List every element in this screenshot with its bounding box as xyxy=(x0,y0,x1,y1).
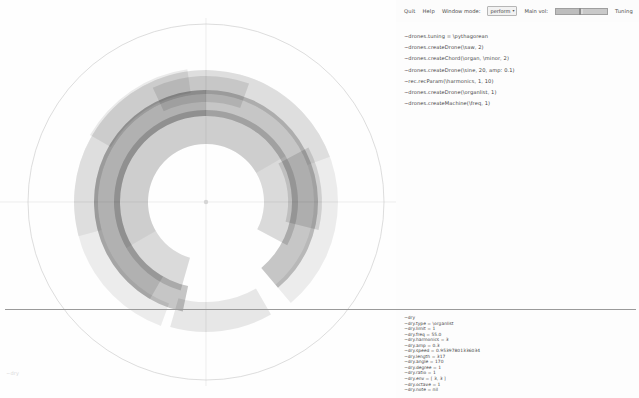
main-volume-slider[interactable] xyxy=(555,8,608,15)
viz-corner-label: ~dry xyxy=(6,370,19,376)
code-log-area[interactable]: ~drones.tuning = \pythagorean~drones.cre… xyxy=(396,26,639,304)
code-line[interactable]: ~drones.createChord(\organ, \minor, 2) xyxy=(404,53,631,64)
help-button[interactable]: Help xyxy=(422,8,434,14)
chevron-down-icon: ▾ xyxy=(512,9,514,13)
right-panel: Quit Help Window mode: perform ▾ Main vo… xyxy=(396,0,639,398)
status-inspector[interactable]: ~dry~dry.type = \organlist~dry.limit = 1… xyxy=(396,313,639,398)
quit-button[interactable]: Quit xyxy=(404,8,415,14)
toolbar: Quit Help Window mode: perform ▾ Main vo… xyxy=(396,0,639,22)
volume-slider-fill-right xyxy=(583,9,607,14)
status-line[interactable]: ~dry.note = nil xyxy=(404,387,631,393)
window-mode-select[interactable]: perform ▾ xyxy=(487,6,517,16)
panel-divider xyxy=(5,309,636,310)
radial-visualizer-panel[interactable]: ~dry xyxy=(0,0,396,398)
code-line[interactable]: ~drones.tuning = \pythagorean xyxy=(404,31,631,42)
window-mode-value: perform xyxy=(490,8,510,14)
center-origin-dot xyxy=(204,200,208,204)
code-line[interactable]: ~drones.createDrone(\sine, 20, amp: 0.1) xyxy=(404,65,631,76)
volume-slider-fill xyxy=(556,9,579,14)
code-line[interactable]: ~drones.createDrone(\saw, 2) xyxy=(404,42,631,53)
window-mode-label: Window mode: xyxy=(442,8,481,14)
main-volume-label: Main vol: xyxy=(524,8,547,14)
code-line[interactable]: ~rec.recParam(\harmonics, 1, 10) xyxy=(404,76,631,87)
code-line[interactable]: ~drones.createMachine(\freq, 1) xyxy=(404,98,631,109)
volume-slider-knob[interactable] xyxy=(579,8,581,15)
app-window: ~dry Quit Help Window mode: perform ▾ Ma… xyxy=(0,0,639,398)
radial-visualizer-canvas[interactable] xyxy=(0,0,396,398)
code-line[interactable]: ~drones.createDrone(\organlist, 1) xyxy=(404,87,631,98)
tuning-button[interactable]: Tuning xyxy=(615,8,633,14)
